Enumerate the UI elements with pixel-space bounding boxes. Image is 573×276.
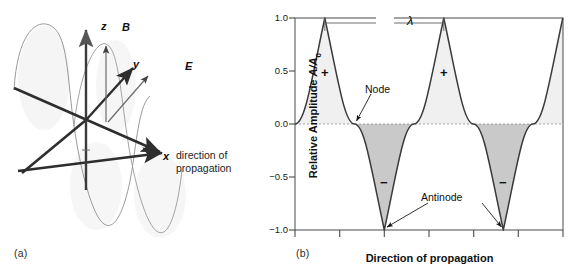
region-sign-plus: +	[321, 66, 329, 79]
lambda-glyph-mask	[376, 16, 394, 30]
y-tick-label: 1.0	[254, 12, 288, 23]
node-label: Node	[365, 83, 390, 95]
region-sign-minus: −	[499, 176, 507, 189]
axis-label-y: y	[133, 58, 139, 70]
panel-a-em-wave-diagram: z y x B E direction of propagation (a)	[0, 0, 286, 276]
y-axis-title: Relative Amplitude A/A0	[307, 21, 322, 211]
y-tick-label: 0.0	[254, 118, 288, 129]
y-tick-label: −0.5	[254, 171, 288, 182]
panel-label-b: (b)	[296, 247, 309, 259]
axis-label-x: x	[163, 150, 169, 162]
x-axis-ticks	[295, 230, 563, 237]
wavelength-lambda-label: λ	[407, 13, 413, 28]
y-axis-title-subscript: 0	[314, 53, 323, 57]
y-axis-tick-labels: 1.0 0.5 0.0 −0.5 −1.0	[254, 0, 288, 276]
y-axis-title-symbol: A/A	[307, 58, 319, 77]
y-tick-label: 0.5	[254, 65, 288, 76]
axis-label-z: z	[101, 20, 107, 32]
background-shading	[18, 26, 186, 238]
panel-b-standing-wave-chart: 1.0 0.5 0.0 −0.5 −1.0 Relative Amplitude…	[286, 0, 573, 276]
region-sign-plus: +	[440, 66, 448, 79]
em-wave-3d-svg	[0, 0, 286, 276]
panel-label-a: (a)	[14, 247, 27, 259]
vector-label-e: E	[185, 60, 192, 72]
y-axis-ticks	[289, 18, 295, 230]
figure-root: z y x B E direction of propagation (a)	[0, 0, 573, 276]
vector-label-b: B	[122, 21, 130, 33]
region-sign-minus: −	[380, 176, 388, 189]
y-axis-title-prefix: Relative Amplitude	[307, 76, 319, 178]
y-tick-label: −1.0	[254, 224, 288, 235]
standing-wave-chart-svg	[286, 0, 573, 276]
antinode-label: Antinode	[421, 191, 462, 203]
x-axis-title: Direction of propagation	[286, 252, 573, 264]
